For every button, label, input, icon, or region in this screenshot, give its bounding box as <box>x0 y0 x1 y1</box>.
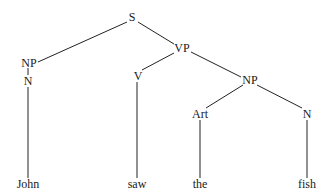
edge-s-np <box>38 22 127 62</box>
leaf-john: John <box>17 178 40 190</box>
leaf-saw: saw <box>128 178 147 190</box>
node-art: Art <box>192 108 208 120</box>
edge-vp-np <box>191 52 241 77</box>
node-v: V <box>134 70 143 82</box>
node-np-subject: NP <box>21 57 36 69</box>
tree-edges <box>0 0 330 196</box>
node-s: S <box>129 11 136 23</box>
leaf-the: the <box>193 178 208 190</box>
edge-np-art <box>206 85 243 108</box>
node-np-object: NP <box>242 74 257 86</box>
leaf-fish: fish <box>298 178 316 190</box>
node-n-object: N <box>303 108 312 120</box>
node-n-subject: N <box>24 75 33 87</box>
edge-vp-v <box>142 53 174 70</box>
edge-np-n <box>257 85 302 108</box>
node-vp: VP <box>174 42 189 54</box>
edge-s-vp <box>138 22 174 44</box>
